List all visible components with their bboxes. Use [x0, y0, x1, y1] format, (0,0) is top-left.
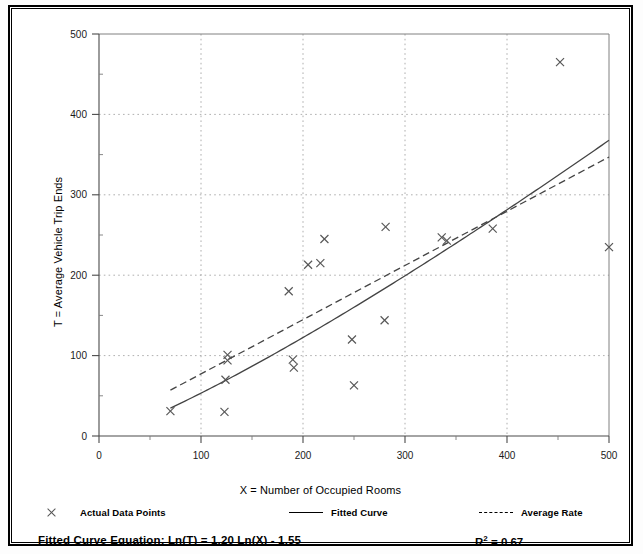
legend-item-fitted-curve: Fitted Curve [289, 507, 388, 518]
y-tick-label: 0 [81, 431, 87, 442]
y-axis-title: T = Average Vehicle Trip Ends [52, 177, 64, 327]
y-tick-label: 400 [70, 109, 87, 120]
chart-page: 0 100 200 300 400 500 0 100 200 300 400 … [0, 0, 643, 554]
r-squared-exponent: 2 [483, 534, 487, 543]
y-tick-label: 100 [70, 350, 87, 361]
legend-label: Actual Data Points [80, 507, 166, 518]
x-tick-label: 400 [499, 450, 516, 461]
y-tick-labels: 0 100 200 300 400 500 [70, 29, 87, 442]
x-axis-title: X = Number of Occupied Rooms [10, 484, 631, 496]
r-squared-annotation: R2 = 0.67 [475, 534, 523, 548]
y-tick-label: 300 [70, 189, 87, 200]
x-axis-minor-ticks [150, 436, 558, 440]
x-tick-label: 200 [295, 450, 312, 461]
x-tick-label: 500 [601, 450, 618, 461]
y-tick-label: 200 [70, 270, 87, 281]
legend-item-actual-data-points: Actual Data Points [38, 507, 166, 518]
scatter-plot: 0 100 200 300 400 500 0 100 200 300 400 … [10, 7, 631, 544]
chart-footer: Fitted Curve Equation: Ln(T) = 1.20 Ln(X… [10, 534, 631, 554]
x-tick-labels: 0 100 200 300 400 500 [96, 450, 618, 461]
y-axis-major-ticks [92, 34, 99, 436]
x-tick-label: 300 [397, 450, 414, 461]
plot-background [99, 34, 609, 436]
cross-marker-icon [38, 508, 72, 518]
x-tick-label: 0 [96, 450, 102, 461]
r-squared-value: = 0.67 [491, 536, 523, 548]
legend-label: Average Rate [521, 507, 583, 518]
dashed-line-icon [479, 508, 513, 518]
fitted-curve-equation: Fitted Curve Equation: Ln(T) = 1.20 Ln(X… [38, 534, 301, 546]
x-tick-label: 100 [193, 450, 210, 461]
solid-line-icon [289, 508, 323, 518]
legend-label: Fitted Curve [331, 507, 388, 518]
y-tick-label: 500 [70, 29, 87, 40]
chart-frame: 0 100 200 300 400 500 0 100 200 300 400 … [8, 5, 633, 546]
legend-item-average-rate: Average Rate [479, 507, 583, 518]
chart-legend: Actual Data Points Fitted Curve Average … [20, 507, 621, 525]
